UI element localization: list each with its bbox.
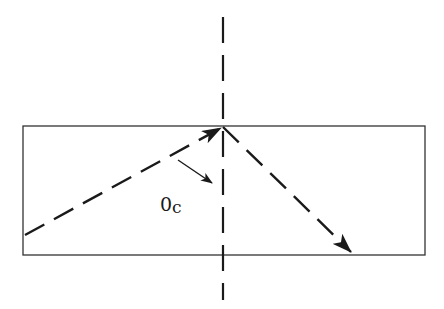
total-internal-reflection-diagram: 0c	[0, 0, 444, 309]
critical-angle-label: 0c	[160, 193, 182, 217]
critical-angle-subscript: c	[172, 197, 182, 217]
angle-pointer-arrow	[178, 160, 212, 183]
incident-ray-arrow	[25, 128, 221, 235]
critical-angle-symbol: 0	[160, 193, 172, 215]
reflected-ray-arrow	[223, 127, 351, 252]
